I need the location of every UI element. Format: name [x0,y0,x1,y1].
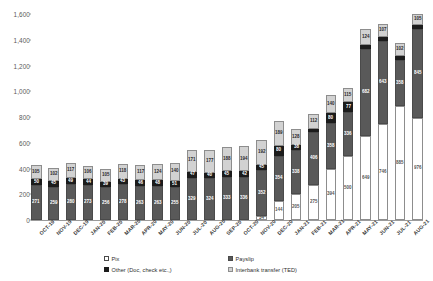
x-tick-label-text: FEB-20 [106,219,124,237]
segment-value-label: 45 [224,172,229,177]
segment-value-label: 275 [310,200,318,205]
bar-column[interactable]: 12448263 [152,14,163,220]
segment-ted: 118 [118,164,129,179]
bar-column[interactable]: 10245259 [48,14,59,220]
segment-value-label: 47 [190,172,195,177]
segment-value-label: 46 [138,181,143,186]
segment-ted: 112 [308,114,319,128]
legend-item[interactable]: Pix [104,256,228,262]
segment-value-label: 255 [171,201,179,206]
bar-column[interactable]: 10529845976 [412,14,423,220]
y-tick-label: 1,600 [2,11,30,18]
segment-value-label: 128 [292,135,300,140]
segment-payslip: 682 [360,49,371,137]
legend-item[interactable]: Interbank transfer (TED) [228,267,344,273]
legend-label: Interbank transfer (TED) [236,267,298,273]
segment-pix: 205 [291,194,302,220]
segment-value-label: 649 [362,176,370,181]
segment-pix: 649 [360,136,371,220]
segment-value-label: 40 [207,173,212,178]
segment-value-label: 115 [345,93,352,98]
segment-payslip: 324 [204,178,215,220]
segment-payslip: 845 [412,29,423,118]
segment-value-label: 273 [84,200,92,205]
segment-value-label: 256 [102,201,110,206]
segment-value-label: 105 [414,17,422,22]
segment-value-label: 682 [362,90,370,95]
segment-payslip: 273 [83,185,94,220]
segment-payslip: 280 [66,184,77,220]
bar-column[interactable]: 10539256 [100,14,111,220]
bar-column[interactable]: 11746263 [135,14,146,220]
segment-payslip: 358 [395,60,406,106]
segment-pix: 500 [343,156,354,220]
segment-value-label: 263 [136,201,144,206]
segment-value-label: 329 [188,197,196,202]
segment-payslip: 336 [343,112,354,155]
payslip-swatch [228,256,233,261]
segment-value-label: 80 [276,148,281,153]
segment-payslip: 336 [239,177,250,220]
segment-value-label: 124 [362,35,370,40]
segment-ted: 192 [256,140,267,165]
legend-label: Other (Doc, check etc.,) [112,267,172,273]
segment-value-label: 77 [346,105,351,110]
segment-pix: 275 [308,185,319,220]
y-tick-label: 1,400 [2,36,30,43]
y-tick-label: 0 [2,217,30,224]
segment-payslip: 338 [291,150,302,194]
segment-value-label: 117 [67,168,74,173]
bar-column[interactable]: 11843278 [118,14,129,220]
segment-value-label: 352 [258,191,266,196]
segment-value-label: 394 [327,192,335,197]
bar-column[interactable]: 14080358394 [326,14,337,220]
bar-column[interactable]: 10550271 [31,14,42,220]
segment-value-label: 50 [34,180,39,185]
bar-column[interactable]: 10644273 [83,14,94,220]
chart-legend: PixPayslipOther (Doc, check etc.,)Interb… [104,253,344,275]
segment-value-label: 885 [396,161,404,166]
bar-column[interactable]: 12429682649 [360,14,371,220]
segment-value-label: 324 [206,197,214,202]
plot-area: 1055027110245259117492801064427310539256… [31,14,423,220]
segment-ted: 194 [239,146,250,171]
y-tick-label: 800 [2,114,30,121]
segment-value-label: 107 [379,28,387,33]
segment-payslip: 259 [48,187,59,220]
x-tick-label-text: MAR-21 [327,218,346,237]
x-tick-label-text: NOV-20 [259,218,277,236]
segment-ted: 107 [378,24,389,38]
bar-column[interactable]: 11227406275 [308,14,319,220]
bar-column[interactable]: 17147329 [187,14,198,220]
legend-item[interactable]: Other (Doc, check etc.,) [104,267,228,273]
bar-column[interactable]: 12838338205 [291,14,302,220]
segment-pix: 976 [412,118,423,220]
segment-ted: 140 [326,95,337,113]
bar-column[interactable]: 11749280 [66,14,77,220]
x-tick-label-text: MAY-20 [157,218,175,236]
segment-pix: 144 [274,201,285,220]
x-tick-label-text: MAR-20 [123,218,142,237]
segment-value-label: 406 [310,156,318,161]
segment-value-label: 278 [119,200,127,205]
segment-value-label: 358 [396,81,404,86]
bar-column[interactable]: 19442336 [239,14,250,220]
bar-column[interactable]: 18845333 [222,14,233,220]
segment-ted: 188 [222,147,233,171]
bar-column[interactable]: 1924535234 [256,14,267,220]
segment-ted: 177 [204,150,215,173]
segment-payslip: 329 [187,178,198,220]
x-tick-label-text: APR-20 [140,218,158,236]
segment-other: 80 [274,146,285,156]
segment-value-label: 105 [102,173,110,178]
bar-column[interactable]: 11577336500 [343,14,354,220]
segment-value-label: 263 [154,201,162,206]
bar-column[interactable]: 17740324 [204,14,215,220]
bar-column[interactable]: 10230358885 [395,14,406,220]
legend-label: Pix [112,256,120,262]
other-swatch [104,267,109,272]
legend-item[interactable]: Payslip [228,256,344,262]
bar-column[interactable]: 10730643746 [378,14,389,220]
bar-column[interactable]: 18980354144 [274,14,285,220]
bar-column[interactable]: 14051255 [170,14,181,220]
